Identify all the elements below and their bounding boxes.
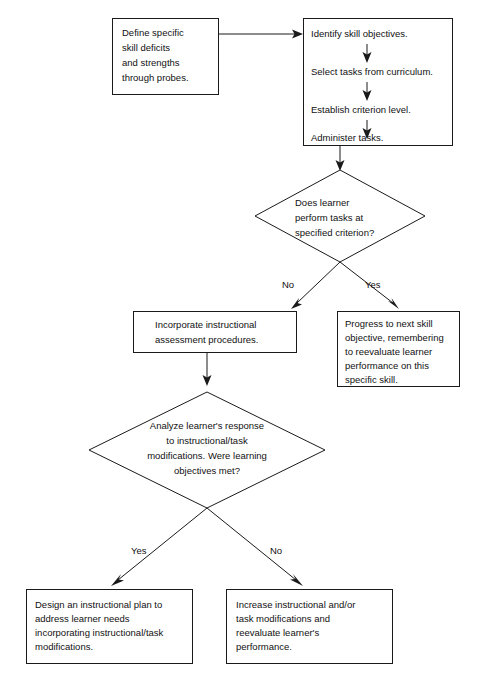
- node-criterion-decision: Does learner perform tasks at specified …: [255, 170, 425, 262]
- criterion-decision-line-3: specified criterion?: [295, 227, 374, 238]
- task-step-2: Select tasks from curriculum.: [311, 66, 433, 77]
- arrow-head-icon: [388, 298, 399, 309]
- task-step-4: Administer tasks.: [311, 132, 383, 143]
- arrow-head-icon: [290, 574, 303, 586]
- connector-define-to-tasks: [219, 30, 304, 39]
- branch-label-criterion-no: No: [282, 279, 294, 290]
- connector-incorporate-to-analyze: [203, 353, 212, 387]
- task-step-3: Establish criterion level.: [311, 104, 411, 115]
- connector-analyze-yes: Yes: [111, 508, 207, 586]
- branch-label-analyze-yes: Yes: [131, 545, 147, 556]
- analyze-line-2: to instructional/task: [166, 435, 248, 446]
- design-plan-line-3: incorporating instructional/task: [35, 627, 164, 638]
- branch-label-criterion-yes: Yes: [365, 279, 381, 290]
- connector-criterion-yes: Yes: [340, 262, 399, 309]
- analyze-line-1: Analyze learner's response: [150, 420, 264, 431]
- define-probes-line-1: Define specific: [122, 27, 184, 38]
- define-probes-line-2: skill deficits: [122, 42, 170, 53]
- define-probes-line-4: through probes.: [122, 72, 189, 83]
- arrow-head-icon: [111, 574, 124, 586]
- node-incorporate-assessment: Incorporate instructional assessment pro…: [134, 312, 297, 353]
- progress-line-1: Progress to next skill: [345, 318, 433, 329]
- task-step-1: Identify skill objectives.: [311, 28, 408, 39]
- flowchart-svg: Define specific skill deficits and stren…: [0, 0, 485, 697]
- define-probes-line-3: and strengths: [122, 57, 180, 68]
- incorporate-assessment-box: [134, 312, 297, 353]
- analyze-line-3: modifications. Were learning: [147, 450, 267, 461]
- increase-line-2: task modifications and: [236, 613, 330, 624]
- design-plan-line-2: address learner needs: [35, 613, 130, 624]
- connector-tasks-to-criterion: [336, 146, 345, 172]
- increase-line-4: performance.: [236, 641, 292, 652]
- node-increase-modifications: Increase instructional and/or task modif…: [227, 590, 393, 664]
- branch-label-analyze-no: No: [270, 545, 282, 556]
- node-task-sequence: Identify skill objectives. Select tasks …: [304, 19, 453, 146]
- criterion-decision-line-2: perform tasks at: [295, 212, 363, 223]
- criterion-decision-line-1: Does learner: [295, 197, 349, 208]
- node-analyze-response-decision: Analyze learner's response to instructio…: [89, 392, 325, 508]
- design-plan-line-4: modifications.: [35, 641, 93, 652]
- incorporate-assessment-line-1: Incorporate instructional: [155, 319, 256, 330]
- node-progress-next-skill: Progress to next skill objective, rememb…: [338, 312, 460, 387]
- incorporate-assessment-line-2: assessment procedures.: [155, 334, 259, 345]
- analyze-line-4: objectives met?: [174, 465, 240, 476]
- progress-line-5: specific skill.: [345, 374, 398, 385]
- node-design-plan: Design an instructional plan to address …: [27, 590, 193, 664]
- flowchart-canvas: Define specific skill deficits and stren…: [0, 0, 485, 697]
- connector-criterion-no: No: [282, 262, 340, 309]
- progress-line-2: objective, remembering: [345, 332, 444, 343]
- design-plan-line-1: Design an instructional plan to: [35, 599, 162, 610]
- progress-line-3: to reevaluate learner: [345, 346, 432, 357]
- increase-line-1: Increase instructional and/or: [236, 599, 355, 610]
- progress-line-4: performance on this: [345, 360, 429, 371]
- increase-line-3: reevaluate learner's: [236, 627, 319, 638]
- connector-analyze-no: No: [207, 508, 303, 586]
- node-define-probes: Define specific skill deficits and stren…: [113, 19, 219, 95]
